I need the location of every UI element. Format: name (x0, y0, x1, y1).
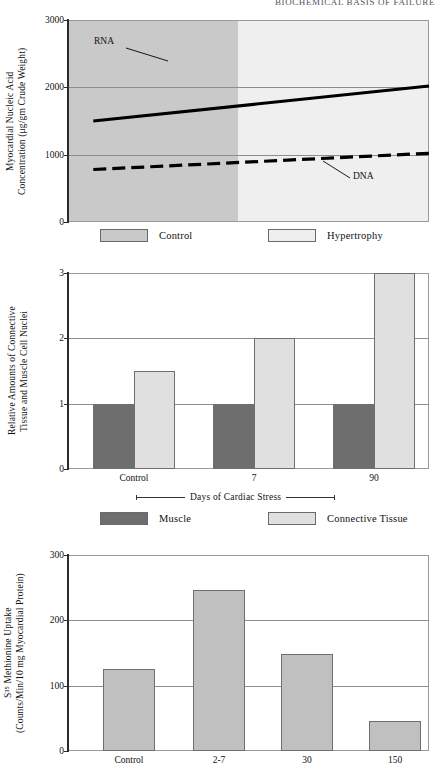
figure-3-xtick-2-7: 2-7 (213, 755, 226, 765)
figure-2-legend: Muscle Connective Tissue (0, 512, 435, 526)
muscle-swatch (100, 512, 148, 525)
bracket-line-right (286, 497, 334, 498)
hypertrophy-swatch (268, 229, 316, 242)
figure-3-ytick-0: 0 (59, 746, 64, 756)
legend-label-control: Control (159, 230, 193, 241)
bar-uptake-2-7 (193, 590, 245, 751)
figure-3-y-axis-label: S³⁵ Methionine Uptake (Counts/Min/10 mg … (2, 555, 28, 751)
rna-line (93, 86, 429, 121)
legend-label-hypertrophy: Hypertrophy (327, 230, 383, 241)
figure-2-xtick-7: 7 (252, 473, 257, 483)
figure-3-xtick-30: 30 (302, 755, 312, 765)
legend-item-connective-tissue: Connective Tissue (268, 512, 408, 525)
bar-uptake-30 (281, 654, 333, 751)
figure-2-ytick-0: 0 (59, 464, 64, 474)
legend-item-control: Control (100, 229, 193, 242)
rna-leader (126, 48, 168, 61)
figure-3-tick-100 (64, 686, 68, 687)
bracket-label: Days of Cardiac Stress (185, 492, 286, 502)
bar-uptake-control (103, 669, 155, 751)
bar-muscle-control (93, 404, 134, 469)
control-swatch (100, 229, 148, 242)
figure-1-nucleic-acid: Myocardial Nucleic Acid Concentration (μ… (0, 0, 435, 255)
figure-page: BIOCHEMICAL BASIS OF FAILURE Myocardial … (0, 0, 435, 771)
figure-2-xtick-90: 90 (369, 473, 379, 483)
figure-2-ytick-3: 3 (59, 268, 64, 278)
figure-1-ytick-0: 0 (59, 217, 64, 227)
figure-2-y-axis-label: Relative Amounts of Connective Tissue an… (6, 273, 32, 469)
rna-label: RNA (94, 36, 114, 46)
figure-1-ytick-1000: 1000 (45, 150, 64, 160)
figure-3-y-axis (67, 554, 69, 752)
figure-2-xtick-control: Control (119, 473, 148, 483)
bar-connective-7 (254, 338, 295, 469)
bar-muscle-90 (333, 404, 374, 469)
connective-tissue-swatch (268, 512, 316, 525)
bar-connective-control (134, 371, 175, 469)
figure-3-ytick-100: 100 (50, 681, 64, 691)
dna-leader (323, 161, 350, 178)
figure-3-ytick-200: 200 (50, 615, 64, 625)
legend-item-muscle: Muscle (100, 512, 191, 525)
figure-1-plot-area: 3000 2000 1000 0 RNA DNA (68, 20, 429, 222)
figure-2-connective-tissue: Relative Amounts of Connective Tissue an… (0, 265, 435, 530)
dna-line (93, 153, 429, 169)
figure-1-ytick-3000: 3000 (45, 15, 64, 25)
legend-label-muscle: Muscle (159, 513, 191, 524)
figure-2-tick-1 (64, 404, 68, 405)
figure-2-tick-2 (64, 338, 68, 339)
figure-3-xtick-control: Control (114, 755, 143, 765)
figure-3-tick-200 (64, 620, 68, 621)
bracket-cap-right (334, 495, 335, 500)
bracket-line-left (137, 497, 185, 498)
days-of-cardiac-stress-bracket: Days of Cardiac Stress (136, 492, 396, 502)
bar-connective-90 (374, 273, 415, 469)
figure-3-gridline-200 (68, 620, 429, 621)
figure-1-tick-0 (64, 222, 68, 223)
figure-1-y-axis-label: Myocardial Nucleic Acid Concentration (μ… (4, 20, 30, 222)
figure-2-tick-3 (64, 273, 68, 274)
legend-item-hypertrophy: Hypertrophy (268, 229, 383, 242)
dna-label: DNA (353, 171, 374, 181)
figure-3-xtick-150: 150 (388, 755, 402, 765)
figure-3-ytick-300: 300 (50, 550, 64, 560)
figure-3-tick-0 (64, 751, 68, 752)
figure-1-series-layer (68, 20, 429, 222)
figure-3-methionine-uptake: S³⁵ Methionine Uptake (Counts/Min/10 mg … (0, 545, 435, 771)
figure-1-ytick-2000: 2000 (45, 82, 64, 92)
figure-2-plot-area: 3 2 1 0 Control 7 90 (68, 273, 429, 469)
figure-2-ytick-2: 2 (59, 333, 64, 343)
legend-label-connective-tissue: Connective Tissue (327, 513, 408, 524)
figure-2-y-axis (67, 272, 69, 470)
figure-1-legend: Control Hypertrophy (0, 229, 435, 243)
figure-3-plot-area: 300 200 100 0 Control 2-7 30 150 (68, 555, 429, 751)
figure-2-tick-0 (64, 469, 68, 470)
figure-3-tick-300 (64, 555, 68, 556)
bar-muscle-7 (213, 404, 254, 469)
bar-uptake-150 (369, 721, 421, 751)
figure-2-ytick-1: 1 (59, 399, 64, 409)
